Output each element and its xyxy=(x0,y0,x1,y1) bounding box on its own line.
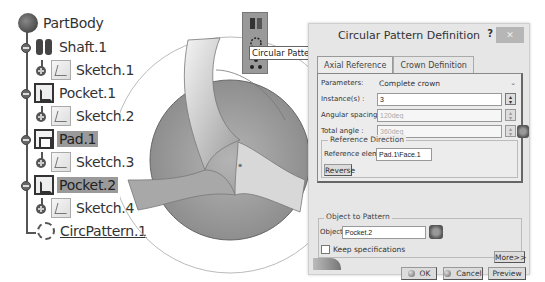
instances-label: Instance(s) : xyxy=(321,95,377,103)
help-button[interactable]: ? xyxy=(487,28,493,39)
object-row: Object: xyxy=(320,225,443,239)
tree-end-line xyxy=(26,232,36,234)
object-label: Object: xyxy=(320,228,342,236)
expand-icon[interactable] xyxy=(36,158,46,168)
circular-pattern-icon xyxy=(37,222,55,240)
tab-crown-definition[interactable]: Crown Definition xyxy=(393,56,474,74)
angular-spacing-label: Angular spacing : xyxy=(321,111,377,119)
instances-spinner[interactable]: ▴▾ xyxy=(505,93,516,105)
sketch-icon xyxy=(51,106,71,126)
instances-input[interactable] xyxy=(377,93,502,106)
expand-icon[interactable] xyxy=(36,112,46,122)
close-icon: ✕ xyxy=(506,30,514,40)
tab-bar: Axial Reference Crown Definition xyxy=(317,56,474,74)
object-input[interactable] xyxy=(342,226,426,239)
close-button[interactable]: ✕ xyxy=(496,27,524,43)
parameters-row: Parameters: Complete crown ⌄ xyxy=(321,76,519,90)
tree-item-pad-1[interactable]: Pad.1 xyxy=(34,129,98,149)
axial-reference-panel: Parameters: Complete crown ⌄ Instance(s)… xyxy=(317,73,523,183)
formula-icon[interactable] xyxy=(517,125,529,138)
partbody-icon xyxy=(18,13,38,33)
3d-viewport[interactable]: ⊕ xyxy=(120,30,320,278)
total-angle-label: Total angle : xyxy=(321,127,377,135)
shaft-icon xyxy=(34,37,54,57)
angular-spacing-row: Angular spacing : ▴▾ xyxy=(321,108,516,122)
collapse-icon[interactable] xyxy=(21,43,31,53)
keep-specifications-label: Keep specifications xyxy=(333,245,405,254)
parameters-label: Parameters: xyxy=(321,79,377,87)
tree-item-label: PartBody xyxy=(41,15,106,31)
parameters-value: Complete crown xyxy=(379,79,440,88)
tree-item-label: Shaft.1 xyxy=(57,39,109,55)
object-to-pattern-title: Object to Pattern xyxy=(324,212,392,221)
angular-spacing-spinner[interactable]: ▴▾ xyxy=(505,109,516,121)
chevron-down-icon: ⌄ xyxy=(510,77,516,90)
ok-icon xyxy=(408,270,415,277)
pattern-toolbar xyxy=(242,12,268,74)
pocket-icon xyxy=(34,175,54,195)
sketch-icon xyxy=(51,60,71,80)
keep-specifications-row: Keep specifications xyxy=(321,242,405,256)
collapse-icon[interactable] xyxy=(21,181,31,191)
cancel-button[interactable]: Cancel xyxy=(443,267,483,280)
instances-row: Instance(s) : ▴▾ xyxy=(321,92,516,106)
parameters-dropdown[interactable]: Complete crown ⌄ xyxy=(377,77,519,90)
more-button[interactable]: More>> xyxy=(494,251,525,263)
tree-trunk-line xyxy=(26,26,28,232)
collapse-icon[interactable] xyxy=(21,89,31,99)
tree-item-pocket-2[interactable]: Pocket.2 xyxy=(34,175,118,195)
expand-icon[interactable] xyxy=(36,66,46,76)
pocket-icon xyxy=(34,83,54,103)
collapse-icon[interactable] xyxy=(21,135,31,145)
circular-pattern-dialog: Circular Pattern Definition ? ✕ Axial Re… xyxy=(308,23,530,275)
tab-axial-reference[interactable]: Axial Reference xyxy=(317,56,393,74)
cancel-icon xyxy=(444,270,451,277)
ok-label: OK xyxy=(420,269,431,278)
reference-direction-title: Reference Direction xyxy=(328,135,406,144)
preview-button[interactable]: Preview xyxy=(488,267,526,280)
reference-element-label: Reference element: xyxy=(324,150,376,158)
tree-item-label: Pad.1 xyxy=(57,131,98,147)
keep-specifications-checkbox[interactable] xyxy=(321,245,330,254)
total-angle-spinner[interactable]: ▴▾ xyxy=(505,125,516,137)
cancel-label: Cancel xyxy=(456,269,481,278)
reference-element-input[interactable] xyxy=(376,148,432,161)
object-select-icon[interactable] xyxy=(429,225,443,239)
rectangular-pattern-icon[interactable] xyxy=(246,16,266,32)
reference-element-row: Reference element: xyxy=(324,147,432,161)
svg-text:⊕: ⊕ xyxy=(238,162,242,168)
reverse-button[interactable]: Reverse xyxy=(324,164,352,176)
reference-direction-group: Reference Direction Reference element: R… xyxy=(321,140,518,178)
part-model-render: ⊕ xyxy=(120,30,320,278)
angular-spacing-input[interactable] xyxy=(377,109,502,122)
catia-logo xyxy=(313,258,341,270)
tree-item-partbody[interactable]: PartBody xyxy=(18,13,106,33)
expand-icon[interactable] xyxy=(36,204,46,214)
tree-item-shaft[interactable]: Shaft.1 xyxy=(34,37,109,57)
sketch-icon xyxy=(51,198,71,218)
sketch-icon xyxy=(51,152,71,172)
tree-item-label: Pocket.1 xyxy=(57,85,118,101)
tree-item-pocket-1[interactable]: Pocket.1 xyxy=(34,83,118,103)
object-to-pattern-group: Object to Pattern Object: Keep specifica… xyxy=(318,218,520,258)
pad-icon xyxy=(34,129,54,149)
tree-item-label: Pocket.2 xyxy=(57,177,118,193)
ok-button[interactable]: OK xyxy=(401,267,437,280)
